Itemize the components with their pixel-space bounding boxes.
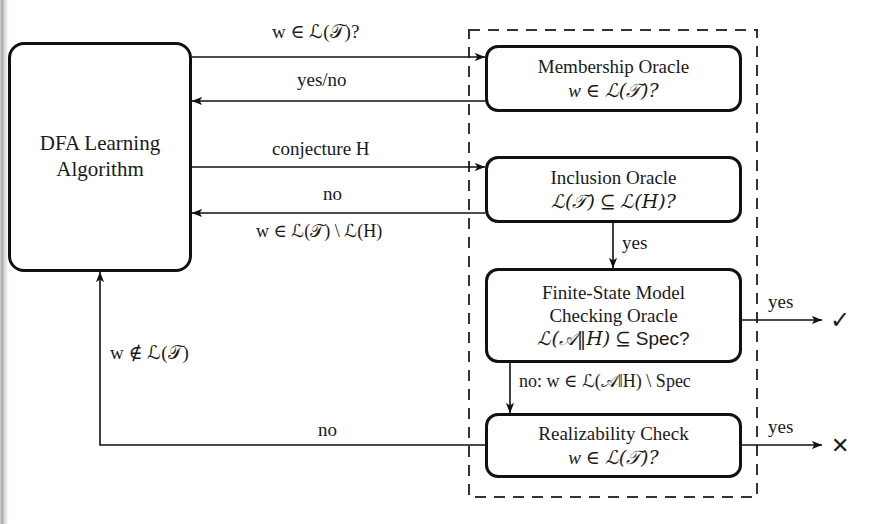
inclusion-line-1: Inclusion Oracle — [550, 166, 676, 189]
realizability-line-2: w ∈ ℒ(𝒯)? — [568, 446, 658, 469]
membership-line-1: Membership Oracle — [538, 55, 689, 78]
label-membership-query: w ∈ ℒ(𝒯)? — [272, 22, 359, 41]
fsm-subseteq: ⊆ — [615, 328, 631, 349]
fsm-lang: ℒ(𝒜‖H) — [537, 327, 610, 349]
inclusion-subseteq: ⊆ — [600, 191, 616, 212]
diagram-canvas: DFA Learning Algorithm Membership Oracle… — [0, 0, 873, 524]
fsm-spec: Spec? — [636, 328, 690, 349]
label-fsm-no: no: w ∈ ℒ(𝒜‖H) \ Spec — [519, 372, 691, 390]
label-realizability-feedback: w ∉ ℒ(𝒯) — [110, 343, 189, 362]
node-membership-oracle[interactable]: Membership Oracle w ∈ ℒ(𝒯)? — [485, 45, 742, 112]
realizability-line-1: Realizability Check — [538, 422, 688, 445]
dfa-line-1: DFA Learning — [40, 131, 160, 157]
label-membership-answer: yes/no — [297, 70, 347, 89]
label-inclusion-counterexample: w ∈ ℒ(𝒯) \ ℒ(H) — [256, 222, 382, 240]
fsm-line-3: ℒ(𝒜‖H) ⊆ Spec? — [537, 327, 689, 350]
failure-cross-icon: ✕ — [831, 433, 849, 458]
membership-elem: ∈ — [586, 80, 600, 101]
realizability-elem: ∈ — [586, 447, 600, 468]
success-check-icon: ✓ — [830, 306, 850, 334]
node-dfa-learning-algorithm[interactable]: DFA Learning Algorithm — [8, 42, 192, 272]
fsm-line-1: Finite-State Model — [542, 281, 685, 304]
realizability-w: w — [568, 447, 581, 468]
label-inclusion-yes: yes — [622, 233, 647, 252]
label-realizability-no: no — [318, 420, 337, 439]
membership-lang: ℒ(𝒯)? — [605, 79, 659, 101]
inclusion-line-2: ℒ(𝒯) ⊆ ℒ(H)? — [551, 190, 676, 213]
membership-w: w — [568, 80, 581, 101]
membership-line-2: w ∈ ℒ(𝒯)? — [568, 79, 658, 102]
label-inclusion-no: no — [323, 184, 342, 203]
label-realizability-yes: yes — [768, 417, 793, 436]
label-fsm-yes: yes — [768, 292, 793, 311]
node-realizability-check[interactable]: Realizability Check w ∈ ℒ(𝒯)? — [485, 413, 742, 478]
fsm-line-2: Checking Oracle — [549, 304, 677, 327]
label-conjecture: conjecture H — [272, 139, 370, 158]
realizability-lang: ℒ(𝒯)? — [605, 446, 659, 468]
node-inclusion-oracle[interactable]: Inclusion Oracle ℒ(𝒯) ⊆ ℒ(H)? — [485, 156, 742, 223]
node-finite-state-model-checking-oracle[interactable]: Finite-State Model Checking Oracle ℒ(𝒜‖H… — [485, 268, 742, 363]
dfa-line-2: Algorithm — [56, 157, 144, 183]
inclusion-lt: ℒ(𝒯) — [551, 190, 595, 212]
inclusion-lh: ℒ(H)? — [620, 190, 676, 212]
